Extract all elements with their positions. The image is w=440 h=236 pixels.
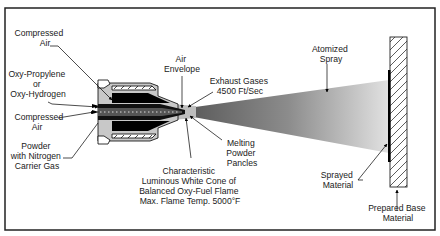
sprayed-material-layer — [388, 70, 391, 162]
label-melting-powder: Melting Powder Pancles — [226, 138, 258, 168]
label-sprayed-material: Sprayed Material — [321, 170, 355, 190]
prepared-base-material — [388, 37, 407, 187]
flame-spray-diagram: Compressed Air Oxy-Propylene or Oxy-Hydr… — [0, 0, 440, 236]
label-exhaust-gases: Exhaust Gases 4500 Ft/Sec — [210, 76, 271, 96]
